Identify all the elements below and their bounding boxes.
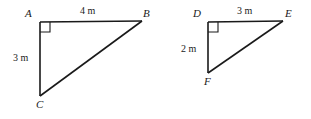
side-length-ac: 3 m: [13, 53, 28, 63]
vertex-label-e: E: [285, 8, 292, 19]
segment-fe: [208, 21, 283, 73]
side-length-df: 2 m: [181, 44, 196, 54]
side-length-ab: 4 m: [80, 6, 95, 16]
segment-ab: [40, 21, 142, 22]
vertex-label-a: A: [25, 8, 32, 19]
right-angle-mark-d: [208, 22, 218, 32]
vertex-label-c: C: [36, 99, 43, 110]
side-length-de: 3 m: [237, 6, 252, 16]
geometry-figure: A B C 4 m 3 m D E F 3 m 2 m: [0, 0, 311, 119]
right-angle-mark-a: [40, 22, 50, 32]
vertex-label-f: F: [204, 76, 211, 87]
triangle-abc-shape: [40, 21, 142, 96]
triangles-svg: [0, 0, 311, 119]
segment-de: [208, 21, 283, 22]
triangle-def-shape: [208, 21, 283, 73]
segment-cb: [40, 21, 142, 96]
vertex-label-d: D: [193, 8, 201, 19]
vertex-label-b: B: [143, 8, 150, 19]
